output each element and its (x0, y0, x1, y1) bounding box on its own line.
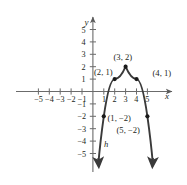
y-axis (90, 17, 96, 172)
point-label-3-2: (3, 2) (114, 52, 133, 62)
y-tick-label-neg3: −3 (77, 125, 86, 134)
point-5-neg2 (145, 114, 149, 118)
x-tick-label-neg2: −2 (67, 95, 76, 104)
point-4-1 (134, 77, 138, 81)
x-tick-label-4: 4 (134, 95, 138, 104)
y-tick-label-3: 3 (81, 50, 85, 59)
x-tick-label-neg3: −3 (56, 95, 65, 104)
point-label-1-neg2: (1, −2) (108, 113, 132, 123)
y-tick-label-1: 1 (81, 75, 85, 84)
point-1-neg2 (102, 114, 106, 118)
y-tick-label-2: 2 (81, 63, 85, 72)
x-tick-label-neg4: −4 (45, 95, 54, 104)
y-tick-label-neg1: −1 (77, 100, 86, 109)
y-tick-label-neg4: −4 (77, 137, 86, 146)
x-tick-labels: −5 −4 −3 −2 −1 1 2 3 4 5 (34, 95, 149, 104)
point-label-2-1: (2, 1) (94, 67, 113, 77)
x-axis-label: x (164, 91, 169, 101)
x-tick-label-neg5: −5 (34, 95, 43, 104)
y-tick-label-4: 4 (81, 38, 85, 47)
graph-figure: x y −5 −4 −3 −2 −1 1 2 3 4 5 5 4 3 2 1 −… (0, 0, 187, 185)
point-3-2 (124, 65, 128, 69)
point-label-5-neg2: (5, −2) (117, 125, 141, 135)
x-tick-label-2: 2 (113, 95, 117, 104)
y-tick-label-neg5: −5 (77, 150, 86, 159)
point-2-1 (113, 77, 117, 81)
point-label-4-1: (4, 1) (153, 68, 172, 78)
coordinate-plane: x y −5 −4 −3 −2 −1 1 2 3 4 5 5 4 3 2 1 −… (0, 0, 187, 185)
y-tick-label-5: 5 (81, 26, 85, 35)
y-tick-label-neg2: −2 (77, 112, 86, 121)
curve-label-h: h (104, 139, 108, 149)
x-tick-label-3: 3 (123, 95, 127, 104)
